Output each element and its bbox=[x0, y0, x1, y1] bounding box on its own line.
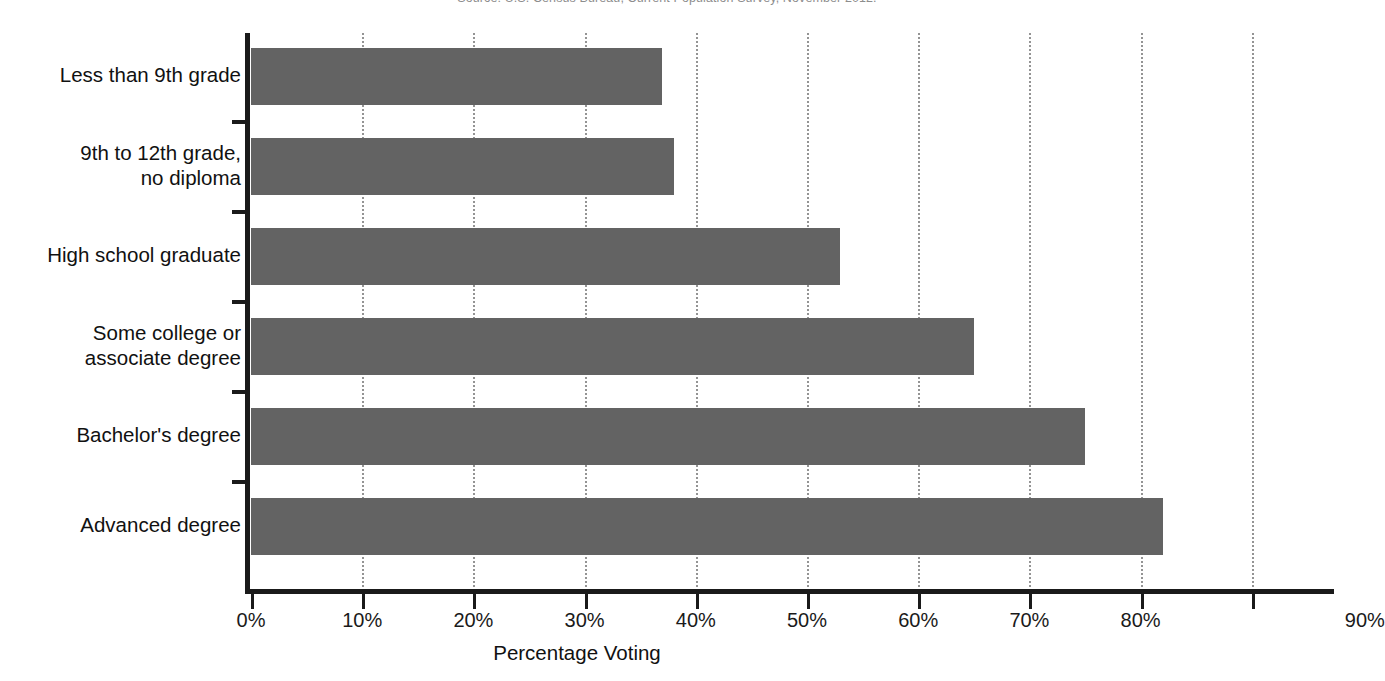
x-tick-label-10: 10% bbox=[342, 609, 382, 632]
x-tick-70 bbox=[1029, 594, 1032, 609]
x-tick-label-50: 50% bbox=[787, 609, 827, 632]
category-label: 9th to 12th grade, no diploma bbox=[80, 140, 241, 190]
x-tick-30 bbox=[585, 594, 588, 609]
x-tick-label-20: 20% bbox=[453, 609, 493, 632]
y-tick bbox=[232, 300, 246, 304]
y-tick bbox=[232, 390, 246, 394]
bar bbox=[251, 138, 674, 195]
bar bbox=[251, 228, 840, 285]
bar bbox=[251, 48, 662, 105]
x-tick-10 bbox=[362, 594, 365, 609]
category-label: Bachelor's degree bbox=[76, 422, 241, 447]
x-tick-90 bbox=[1252, 594, 1255, 609]
x-tick-40 bbox=[696, 594, 699, 609]
category-label: Less than 9th grade bbox=[60, 62, 241, 87]
bar bbox=[251, 498, 1163, 555]
x-tick-label-70: 70% bbox=[1009, 609, 1049, 632]
x-axis-title: Percentage Voting bbox=[0, 641, 1334, 665]
x-tick-label-0: 0% bbox=[237, 609, 266, 632]
x-tick-60 bbox=[918, 594, 921, 609]
category-label: High school graduate bbox=[47, 242, 241, 267]
x-tick-label-30: 30% bbox=[565, 609, 605, 632]
x-axis-title-text: Percentage Voting bbox=[493, 641, 661, 664]
gridline-90 bbox=[1252, 33, 1254, 591]
bar bbox=[251, 318, 974, 375]
category-label: Advanced degree bbox=[80, 512, 241, 537]
x-tick-label-40: 40% bbox=[676, 609, 716, 632]
y-tick bbox=[232, 120, 246, 124]
category-label: Some college or associate degree bbox=[85, 320, 241, 370]
y-tick bbox=[232, 480, 246, 484]
x-tick-label-90: 90% bbox=[1345, 609, 1385, 632]
x-tick-0 bbox=[251, 594, 254, 609]
x-tick-80 bbox=[1141, 594, 1144, 609]
x-tick-20 bbox=[473, 594, 476, 609]
x-tick-label-60: 60% bbox=[898, 609, 938, 632]
x-axis-line bbox=[245, 589, 1334, 594]
x-tick-label-80: 80% bbox=[1121, 609, 1161, 632]
x-tick-50 bbox=[807, 594, 810, 609]
bar bbox=[251, 408, 1085, 465]
y-tick bbox=[232, 210, 246, 214]
